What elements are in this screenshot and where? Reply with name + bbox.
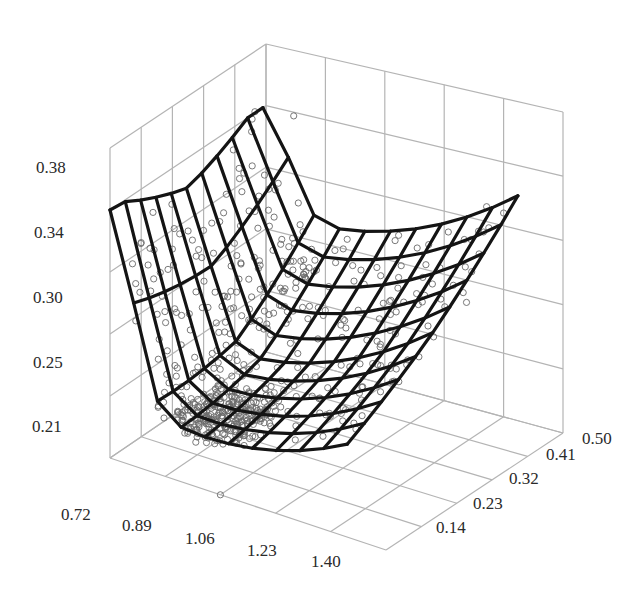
z-axis-tick-labels: 0.38 0.34 0.30 0.25 0.21 xyxy=(32,158,66,436)
z-tick-0.30: 0.30 xyxy=(33,288,63,307)
x-tick-1.23: 1.23 xyxy=(247,541,277,560)
x-tick-0.89: 0.89 xyxy=(122,516,152,535)
z-tick-0.34: 0.34 xyxy=(34,223,64,242)
y-tick-0.14: 0.14 xyxy=(436,518,466,537)
y-tick-0.23: 0.23 xyxy=(473,494,503,513)
z-tick-0.21: 0.21 xyxy=(32,417,62,436)
x-tick-0.72: 0.72 xyxy=(61,505,91,524)
z-tick-0.25: 0.25 xyxy=(33,353,63,372)
y-axis-tick-labels: 0.14 0.23 0.32 0.41 0.50 xyxy=(436,429,612,537)
x-tick-1.06: 1.06 xyxy=(185,529,215,548)
y-tick-0.32: 0.32 xyxy=(509,469,539,488)
axis-grid xyxy=(110,44,563,550)
y-tick-0.41: 0.41 xyxy=(546,445,576,464)
z-tick-0.38: 0.38 xyxy=(36,158,66,177)
x-axis-tick-labels: 0.72 0.89 1.06 1.23 1.40 xyxy=(61,505,341,571)
3d-chart: 0.38 0.34 0.30 0.25 0.21 0.72 0.89 1.06 … xyxy=(0,0,644,596)
surface-mesh xyxy=(110,108,518,451)
y-tick-0.50: 0.50 xyxy=(582,429,612,448)
x-tick-1.40: 1.40 xyxy=(311,552,341,571)
